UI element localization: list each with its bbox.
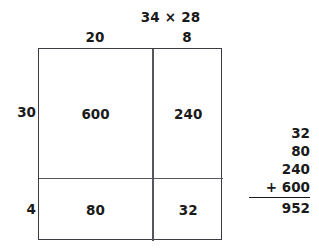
area-model-grid: 600 240 80 32 — [38, 48, 222, 240]
sum-column: 32 80 240 + 600 952 — [249, 124, 310, 217]
sum-addend-240: 240 — [249, 160, 310, 178]
page-title: 34 × 28 — [0, 9, 319, 25]
sum-addend-32: 32 — [249, 124, 310, 142]
grid-cell-80: 80 — [39, 179, 152, 241]
grid-cell-240: 240 — [154, 49, 223, 178]
sum-addend-600: + 600 — [249, 178, 310, 198]
row-header-30: 30 — [6, 104, 36, 120]
sum-total: 952 — [249, 198, 310, 217]
column-header-20: 20 — [38, 29, 152, 45]
column-header-8: 8 — [152, 29, 222, 45]
grid-cell-32: 32 — [154, 179, 223, 241]
grid-cell-600: 600 — [39, 49, 152, 178]
row-header-4: 4 — [6, 201, 36, 217]
sum-addend-80: 80 — [249, 142, 310, 160]
